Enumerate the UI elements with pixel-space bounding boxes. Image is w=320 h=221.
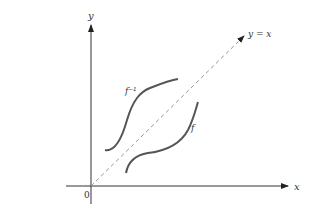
- diagonal-label: y = x: [247, 29, 271, 39]
- origin-label: 0: [84, 190, 90, 200]
- f-inverse-label: f⁻¹: [124, 86, 137, 96]
- f-curve: [126, 102, 198, 173]
- x-axis-label: x: [294, 181, 300, 192]
- y-axis-label: y: [87, 10, 94, 21]
- inverse-function-diagram: y x 0 y = x f⁻¹ f: [0, 0, 320, 221]
- f-inverse-curve: [105, 79, 178, 150]
- diagonal-line: [91, 36, 244, 186]
- f-label: f: [190, 123, 196, 133]
